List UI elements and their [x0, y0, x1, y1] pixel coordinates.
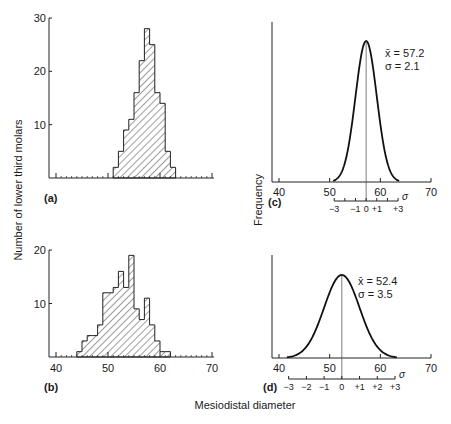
panel-label: (d)	[263, 381, 277, 393]
sigma-tick-label: −3	[329, 204, 339, 214]
x-tick-label: 40	[50, 362, 62, 374]
sigma-tick-label: −2	[301, 382, 311, 392]
x-tick-label: 50	[102, 362, 114, 374]
x-tick-label: 70	[425, 362, 437, 374]
sigma-tick-label: +1	[354, 382, 364, 392]
sigma-symbol: σ	[399, 369, 406, 380]
y-tick-label: 10	[34, 298, 46, 310]
histogram-bars	[113, 29, 175, 178]
sd-annotation: σ = 2.1	[385, 60, 420, 72]
sigma-tick-label: +2	[372, 382, 382, 392]
y-tick-label: 20	[34, 65, 46, 77]
x-tick-label: 50	[324, 186, 336, 198]
panel-c-normal-curve: 40506070x̄ = 57.2σ = 2.1−3−10+1+3σ(c)	[268, 22, 437, 214]
y-tick-label: 30	[34, 12, 46, 24]
sigma-tick-label: 0	[364, 204, 369, 214]
panel-a-histogram: 102030(a)	[34, 12, 214, 204]
panel-label: (a)	[44, 192, 58, 204]
x-tick-label: 40	[273, 362, 285, 374]
sigma-tick-label: −3	[283, 382, 293, 392]
sigma-tick-label: +3	[393, 204, 403, 214]
sigma-symbol: σ	[402, 191, 409, 202]
y-tick-label: 10	[34, 119, 46, 131]
x-tick-label: 70	[206, 362, 218, 374]
x-tick-label: 70	[425, 186, 437, 198]
x-tick-label: 50	[324, 362, 336, 374]
sigma-tick-label: +3	[390, 382, 400, 392]
sigma-tick-label: +1	[372, 204, 382, 214]
y-axis-label-right: Frequency	[252, 174, 264, 226]
mean-annotation: x̄ = 52.4	[358, 275, 397, 287]
y-tick-label: 20	[34, 244, 46, 256]
sigma-tick-label: 0	[339, 382, 344, 392]
figure-canvas: Number of lower third molars Frequency M…	[0, 0, 451, 424]
sigma-tick-label: −1	[319, 382, 329, 392]
histogram-bars	[77, 255, 171, 357]
panel-label: (b)	[44, 381, 58, 393]
panel-label: (c)	[268, 196, 282, 208]
y-axis-label-left: Number of lower third molars	[12, 119, 24, 261]
sd-annotation: σ = 3.5	[358, 288, 393, 300]
x-axis-label: Mesiodistal diameter	[195, 399, 296, 411]
x-tick-label: 60	[154, 362, 166, 374]
panel-b-histogram: 102040506070(b)	[34, 244, 218, 393]
x-tick-label: 60	[374, 186, 386, 198]
mean-annotation: x̄ = 57.2	[385, 47, 424, 59]
x-tick-label: 60	[374, 362, 386, 374]
sigma-tick-label: −1	[350, 204, 360, 214]
panel-d-normal-curve: 40506070x̄ = 52.4σ = 3.5−3−2−10+1+2+3σ(d…	[263, 255, 437, 393]
